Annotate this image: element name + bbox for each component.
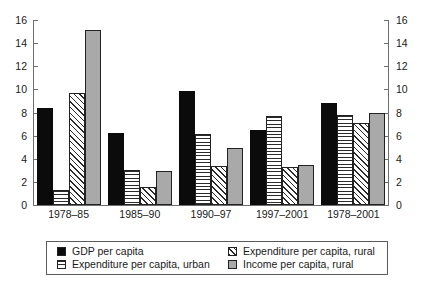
bar	[140, 187, 156, 205]
legend-item-expenditure-urban: Expenditure per capita, urban	[47, 259, 222, 270]
x-axis	[33, 205, 389, 206]
legend-label: GDP per capita	[72, 246, 144, 257]
x-axis-label: 1978–85	[33, 208, 104, 220]
y-tick-label-left: 14	[15, 38, 27, 48]
y-tick-label-right: 2	[396, 177, 402, 187]
bar	[369, 113, 385, 206]
bar	[353, 123, 369, 205]
bar	[211, 166, 227, 205]
legend-item-gdp-per-capita: GDP per capita	[47, 246, 222, 257]
y-tick-label-right: 4	[396, 154, 402, 164]
x-axis-label: 1985–90	[104, 208, 175, 220]
y-tick-label-left: 0	[21, 200, 27, 210]
legend-item-expenditure-rural: Expenditure per capita, rural	[222, 246, 375, 257]
legend-row-1: GDP per capita Expenditure per capita, r…	[47, 245, 387, 258]
plot-area: 0246810121416 0246810121416	[33, 20, 389, 206]
y-tick-label-left: 16	[15, 15, 27, 25]
x-axis-label: 1997–2001	[247, 208, 318, 220]
horizontal-lines-swatch-icon	[57, 260, 66, 269]
y-tick-label-right: 10	[396, 84, 408, 94]
bar-groups	[34, 20, 388, 205]
bar-group	[105, 20, 176, 205]
legend-label: Expenditure per capita, rural	[243, 246, 375, 257]
bar	[85, 30, 101, 205]
y-tick-label-right: 8	[396, 108, 402, 118]
legend-row-2: Expenditure per capita, urban Income per…	[47, 258, 387, 271]
bar-chart: 0246810121416 0246810121416 1978–851985–…	[0, 0, 433, 287]
y-tick-label-left: 12	[15, 61, 27, 71]
y-tick-label-right: 12	[396, 61, 408, 71]
bar	[321, 103, 337, 205]
bar	[37, 108, 53, 205]
bar	[69, 93, 85, 205]
x-axis-label: 1978–2001	[318, 208, 389, 220]
bar	[179, 91, 195, 205]
bar	[195, 134, 211, 205]
legend-label: Income per capita, rural	[243, 259, 353, 270]
bar-group	[176, 20, 247, 205]
bar	[266, 116, 282, 205]
y-tick-left	[34, 205, 38, 206]
y-tick-label-right: 0	[396, 200, 402, 210]
bar	[337, 115, 353, 205]
y-tick-label-left: 4	[21, 154, 27, 164]
bar	[124, 170, 140, 205]
bar	[227, 148, 243, 205]
solid-black-swatch-icon	[57, 247, 66, 256]
x-axis-labels: 1978–851985–901990–971997–20011978–2001	[33, 208, 389, 220]
solid-gray-swatch-icon	[228, 260, 237, 269]
bar	[298, 165, 314, 205]
bar	[53, 190, 69, 205]
diagonal-hatch-swatch-icon	[228, 247, 237, 256]
chart-legend: GDP per capita Expenditure per capita, r…	[46, 241, 388, 275]
y-tick-label-right: 16	[396, 15, 408, 25]
x-axis-label: 1990–97	[175, 208, 246, 220]
y-tick-right	[384, 205, 388, 206]
bar	[282, 167, 298, 205]
y-tick-label-left: 6	[21, 131, 27, 141]
bar	[108, 133, 124, 205]
y-axis-right	[388, 20, 389, 206]
bar-group	[317, 20, 388, 205]
y-tick-label-left: 10	[15, 84, 27, 94]
bar	[156, 171, 172, 205]
y-tick-label-right: 14	[396, 38, 408, 48]
y-tick-label-left: 8	[21, 108, 27, 118]
bar-group	[246, 20, 317, 205]
legend-item-income-rural: Income per capita, rural	[222, 259, 353, 270]
y-tick-label-left: 2	[21, 177, 27, 187]
bar-group	[34, 20, 105, 205]
legend-label: Expenditure per capita, urban	[72, 259, 210, 270]
bar	[250, 130, 266, 205]
y-tick-label-right: 6	[396, 131, 402, 141]
